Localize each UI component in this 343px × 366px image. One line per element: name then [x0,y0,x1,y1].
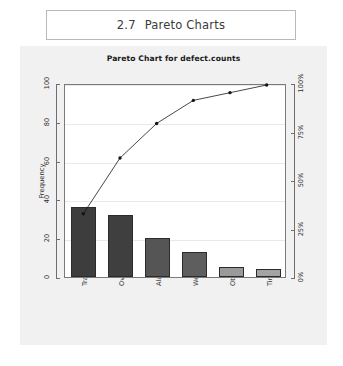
chart-title: Pareto Chart for defect.counts [20,54,327,63]
y-axis-tick [56,162,60,163]
section-title: Pareto Charts [145,18,225,32]
section-number: 2.7 [117,18,136,32]
y-axis-tick [56,84,60,85]
section-header: 2.7 Pareto Charts [46,10,296,40]
y-axis-line [56,84,57,278]
y2-axis-tick [291,84,295,85]
y-axis-tick [56,200,60,201]
y-axis-tick-label: 80 [43,113,51,131]
y-axis-tick [56,123,60,124]
y2-axis-tick [291,230,295,231]
y2-axis-tick [291,181,295,182]
y2-axis-tick-label: 0% [297,266,305,288]
cumulative-point [228,91,231,94]
cumulative-point [82,212,85,215]
cumulative-point [265,83,268,86]
y-axis-tick-label: 100 [43,74,51,92]
y-axis-tick [56,239,60,240]
y2-axis-tick-label: 75% [297,121,305,143]
cumulative-point [192,99,195,102]
y-axis-tick-label: 0 [43,268,51,286]
y2-axis-tick-label: 50% [297,169,305,191]
y2-axis-tick-label: 25% [297,218,305,240]
y-axis-tick-label: 60 [43,152,51,170]
y-axis-tick-label: 20 [43,229,51,247]
cumulative-line-series [65,85,285,277]
y2-axis-tick [291,278,295,279]
plot-area [64,84,286,278]
y2-axis-tick [291,133,295,134]
y2-axis-tick-label: 100% [297,72,305,94]
y-axis-tick-label: 40 [43,190,51,208]
cumulative-point [155,122,158,125]
cumulative-point [118,156,121,159]
pareto-chart-figure: Pareto Chart for defect.counts Frequency… [20,46,327,345]
y-axis-tick [56,278,60,279]
